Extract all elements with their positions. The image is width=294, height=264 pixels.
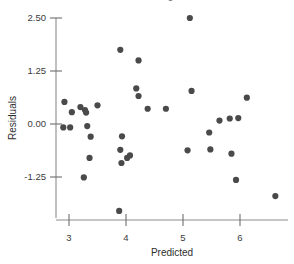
x-axis-title: Predicted	[151, 247, 193, 258]
y-axis-tick-label: 2.50	[28, 12, 47, 23]
y-axis-tick-label: 0.00	[28, 118, 47, 129]
axis-lines-group	[56, 18, 288, 220]
data-point-marker	[133, 85, 139, 91]
data-point-marker	[188, 88, 194, 94]
data-point-marker	[83, 109, 89, 115]
data-point-marker	[117, 147, 123, 153]
scatter-plot-figure: 2.501.250.00-1.25 3456 Predicted Residua…	[0, 0, 294, 264]
data-point-marker	[184, 147, 190, 153]
data-point-marker	[227, 115, 233, 121]
data-point-marker	[207, 146, 213, 152]
data-point-marker	[187, 15, 193, 21]
y-axis-tick-labels-group: 2.501.250.00-1.25	[24, 12, 46, 182]
data-point-marker	[60, 124, 66, 130]
data-point-marker	[135, 57, 141, 63]
data-point-marker	[163, 106, 169, 112]
data-point-marker	[88, 134, 94, 140]
y-axis-tick-label: 1.25	[28, 65, 47, 76]
x-axis-tick-label: 6	[237, 232, 242, 243]
data-point-marker	[117, 47, 123, 53]
data-point-marker	[216, 118, 222, 124]
data-point-marker	[67, 124, 73, 130]
y-axis-tick-label: -1.25	[24, 171, 46, 182]
x-axis-tick-label: 4	[123, 232, 128, 243]
data-point-marker	[116, 208, 122, 214]
data-point-marker	[145, 106, 151, 112]
data-point-marker	[61, 99, 67, 105]
data-point-marker	[119, 133, 125, 139]
data-point-marker	[167, 0, 173, 1]
data-point-marker	[206, 129, 212, 135]
data-points-group	[60, 0, 278, 214]
data-point-marker	[84, 123, 90, 129]
x-axis-tick-label: 3	[66, 232, 71, 243]
data-point-marker	[118, 160, 124, 166]
data-point-marker	[233, 177, 239, 183]
data-point-marker	[86, 155, 92, 161]
data-point-marker	[94, 102, 100, 108]
data-point-marker	[235, 115, 241, 121]
y-axis-title: Residuals	[7, 96, 18, 140]
data-point-marker	[244, 95, 250, 101]
x-axis-tick-labels-group: 3456	[66, 232, 242, 243]
x-axis-tick-label: 5	[180, 232, 185, 243]
data-point-marker	[135, 93, 141, 99]
data-point-marker	[272, 193, 278, 199]
data-point-marker	[127, 152, 133, 158]
data-point-marker	[228, 151, 234, 157]
chart-canvas: 2.501.250.00-1.25 3456 Predicted Residua…	[0, 0, 294, 264]
data-point-marker	[81, 174, 87, 180]
data-point-marker	[69, 109, 75, 115]
